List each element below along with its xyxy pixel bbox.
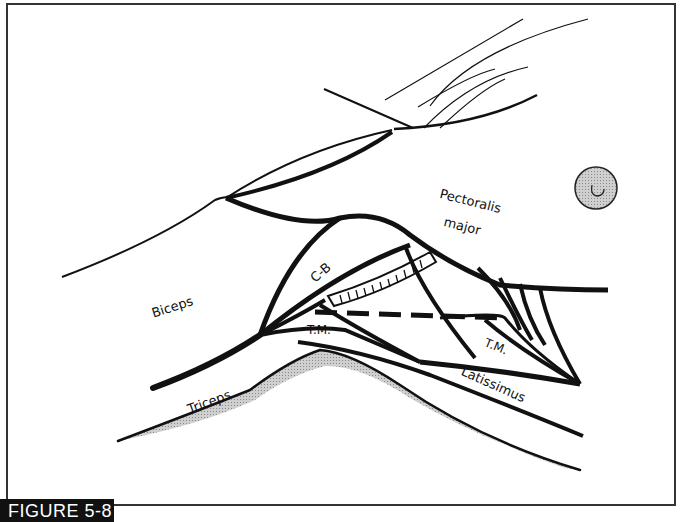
figure-caption: FIGURE 5-8 bbox=[0, 499, 114, 522]
coracobrachialis-outline bbox=[260, 218, 340, 335]
anatomy-diagram bbox=[0, 0, 684, 522]
pectoral-top-line bbox=[394, 95, 537, 129]
arm-lower-line bbox=[153, 335, 260, 388]
biceps-upper-line bbox=[62, 197, 230, 277]
label-tm-left: T.M. bbox=[307, 323, 331, 337]
chest-fine-lines bbox=[385, 19, 588, 128]
nipple-icon bbox=[575, 167, 617, 209]
deltoid-lower bbox=[226, 132, 392, 198]
clavicle-line bbox=[324, 89, 413, 128]
deltoid-upper bbox=[226, 130, 392, 198]
